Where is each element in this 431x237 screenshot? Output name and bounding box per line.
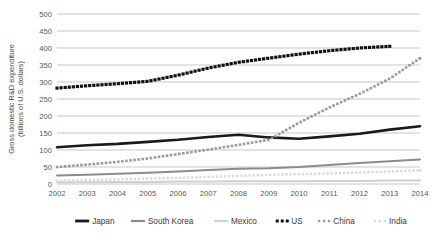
y-tick-label: 0 xyxy=(48,180,52,189)
legend-label: China xyxy=(333,217,355,226)
series-line xyxy=(57,126,420,147)
series-dot xyxy=(137,158,140,161)
series-dot xyxy=(193,70,196,73)
series-dot xyxy=(173,74,176,77)
series-dot xyxy=(408,64,411,67)
series-dot xyxy=(76,179,78,181)
series-dot xyxy=(64,86,67,89)
series-dot xyxy=(362,91,365,94)
legend-label: India xyxy=(389,217,407,226)
series-dot xyxy=(247,142,250,145)
series-dot xyxy=(197,69,200,72)
series-dot xyxy=(286,54,289,57)
series-dot xyxy=(335,172,337,174)
series-dot xyxy=(395,73,398,76)
series-dot xyxy=(330,172,332,174)
y-tick-label: 400 xyxy=(39,44,52,53)
series-dot xyxy=(278,133,281,136)
series-dot xyxy=(321,110,324,113)
series-dot xyxy=(72,85,75,88)
series-dot xyxy=(266,57,269,60)
series-dot xyxy=(296,123,299,126)
series-dot xyxy=(230,62,233,65)
series-dot xyxy=(134,178,136,180)
series-dot xyxy=(105,162,108,165)
series-dot xyxy=(262,57,265,60)
series-dot xyxy=(318,172,320,174)
series-dot xyxy=(415,59,418,62)
series-dot xyxy=(59,86,62,89)
series-dot xyxy=(117,178,119,180)
series-dot xyxy=(170,154,173,157)
series-dot xyxy=(92,84,95,87)
series-japan xyxy=(57,126,420,147)
series-dot xyxy=(226,63,229,66)
series-dot xyxy=(368,46,371,49)
series-dot xyxy=(171,177,173,179)
series-dot xyxy=(187,176,189,178)
series-dot xyxy=(299,121,302,124)
legend-item-south-korea[interactable]: South Korea xyxy=(131,217,194,226)
series-dot xyxy=(366,89,369,92)
legend-item-mexico[interactable]: Mexico xyxy=(214,217,257,226)
series-dot xyxy=(88,84,91,87)
legend-item-us[interactable]: US xyxy=(276,217,303,226)
series-dot xyxy=(351,171,353,173)
series-dot xyxy=(384,79,387,82)
x-tick-label: 2010 xyxy=(291,189,308,198)
series-dot xyxy=(282,55,285,58)
series-dot xyxy=(347,172,349,174)
legend-dot-swatch xyxy=(384,220,386,222)
series-dot xyxy=(239,143,242,146)
series-dot xyxy=(56,166,59,169)
x-tick-label: 2004 xyxy=(109,189,126,198)
series-dot xyxy=(104,83,107,86)
legend-item-japan[interactable]: Japan xyxy=(75,217,115,226)
series-dot xyxy=(248,174,250,176)
series-dot xyxy=(299,52,302,55)
series-dot xyxy=(133,159,136,162)
series-dot xyxy=(323,50,326,53)
series-dot xyxy=(356,47,359,50)
series-dot xyxy=(335,48,338,51)
legend-item-india[interactable]: India xyxy=(374,217,408,226)
series-dot xyxy=(80,179,82,181)
series-dot xyxy=(154,177,156,179)
y-tick-label: 450 xyxy=(39,27,52,36)
series-dot xyxy=(277,173,279,175)
legend-item-china[interactable]: China xyxy=(318,217,355,226)
series-dot xyxy=(388,45,391,48)
series-dot xyxy=(234,61,237,64)
series-dot xyxy=(109,83,112,86)
series-dot xyxy=(76,164,79,167)
series-dot xyxy=(194,150,197,153)
series-dot xyxy=(384,170,386,172)
series-dot xyxy=(339,48,342,51)
legend-label: US xyxy=(291,217,303,226)
series-dot xyxy=(307,51,310,54)
series-dot xyxy=(376,45,379,48)
series-dot xyxy=(306,173,308,175)
x-axis-ticks: 2002200320042005200620072008200920102011… xyxy=(49,189,429,198)
series-dot xyxy=(84,163,87,166)
y-tick-label: 150 xyxy=(39,129,52,138)
series-dot xyxy=(419,57,422,60)
legend-dot-swatch xyxy=(379,220,381,222)
series-dot xyxy=(416,169,418,171)
series-dot xyxy=(195,176,197,178)
chart-legend: JapanSouth KoreaMexicoUSChinaIndia xyxy=(75,217,407,226)
series-dot xyxy=(380,171,382,173)
x-tick-label: 2008 xyxy=(230,189,247,198)
series-dot xyxy=(322,172,324,174)
series-dot xyxy=(258,58,261,61)
series-dot xyxy=(64,179,66,181)
series-dot xyxy=(158,156,161,159)
series-dot xyxy=(359,92,362,95)
series-dot xyxy=(210,148,213,151)
series-dot xyxy=(222,64,225,67)
x-tick-label: 2012 xyxy=(351,189,368,198)
series-dot xyxy=(253,174,255,176)
series-dot xyxy=(326,172,328,174)
series-dot xyxy=(355,171,357,173)
series-dot xyxy=(242,60,245,63)
